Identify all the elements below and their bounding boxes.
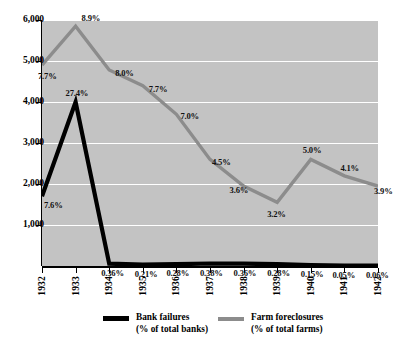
- data-label: 7.7%: [38, 71, 57, 81]
- y-axis-label: 1,000: [4, 219, 44, 229]
- y-axis-label: 2,000: [4, 178, 44, 188]
- x-axis-tick: [76, 268, 77, 273]
- x-axis-label: 1938: [239, 276, 249, 296]
- legend-farm-line1: Farm foreclosures: [251, 312, 323, 322]
- chart-legend: Bank failures (% of total banks) Farm fo…: [0, 312, 392, 346]
- data-label: 5.0%: [303, 145, 322, 155]
- data-label: 0.28%: [267, 268, 290, 278]
- legend-swatch-farm-foreclosures-icon: [218, 317, 244, 321]
- data-label: 3.6%: [230, 185, 249, 195]
- x-axis-label: 1934: [104, 276, 114, 296]
- y-axis-label: 5,000: [4, 55, 44, 65]
- data-label: 7.7%: [149, 84, 168, 94]
- legend-swatch-bank-failures-icon: [103, 316, 129, 321]
- data-label: 0.06%: [366, 270, 389, 280]
- series-line-bank-failures: [42, 102, 378, 266]
- data-label: 7.6%: [44, 200, 63, 210]
- y-axis-label: 6,000: [4, 14, 44, 24]
- x-axis-tick: [42, 268, 43, 273]
- legend-label-bank-failures: Bank failures (% of total banks): [136, 312, 208, 335]
- legend-item-bank-failures: Bank failures (% of total banks): [103, 312, 208, 335]
- data-label: 27.4%: [66, 88, 89, 98]
- data-label: 0.15%: [301, 269, 324, 279]
- legend-farm-line2: (% of total farms): [251, 324, 323, 334]
- x-axis-label: 1939: [272, 276, 282, 296]
- x-axis-label: 1936: [171, 276, 181, 296]
- data-label: 7.0%: [180, 111, 199, 121]
- data-label: 3.9%: [374, 186, 393, 196]
- data-label: 0.21%: [135, 269, 158, 279]
- series-lines: [42, 20, 378, 266]
- data-label: 8.9%: [82, 13, 101, 23]
- plot-area: [42, 20, 378, 266]
- x-axis-label: 1935: [138, 276, 148, 296]
- data-label: 0.36%: [234, 268, 257, 278]
- y-axis-label: 4,000: [4, 96, 44, 106]
- data-label: 0.36%: [101, 268, 124, 278]
- y-axis-label: 3,000: [4, 137, 44, 147]
- x-axis-label: 1933: [71, 276, 81, 296]
- data-label: 0.38%: [200, 268, 223, 278]
- legend-bank-line1: Bank failures: [136, 312, 189, 322]
- x-axis-label: 1937: [205, 276, 215, 296]
- data-label: 3.2%: [267, 209, 286, 219]
- data-label: 8.0%: [115, 68, 134, 78]
- x-axis-label: 1932: [37, 276, 47, 296]
- legend-label-farm-foreclosures: Farm foreclosures (% of total farms): [251, 312, 323, 335]
- data-label: 4.1%: [340, 163, 359, 173]
- legend-item-farm-foreclosures: Farm foreclosures (% of total farms): [218, 312, 323, 335]
- data-label: 4.5%: [212, 157, 231, 167]
- data-label: 0.28%: [166, 268, 189, 278]
- legend-bank-line2: (% of total banks): [136, 324, 208, 334]
- data-label: 0.05%: [332, 270, 355, 280]
